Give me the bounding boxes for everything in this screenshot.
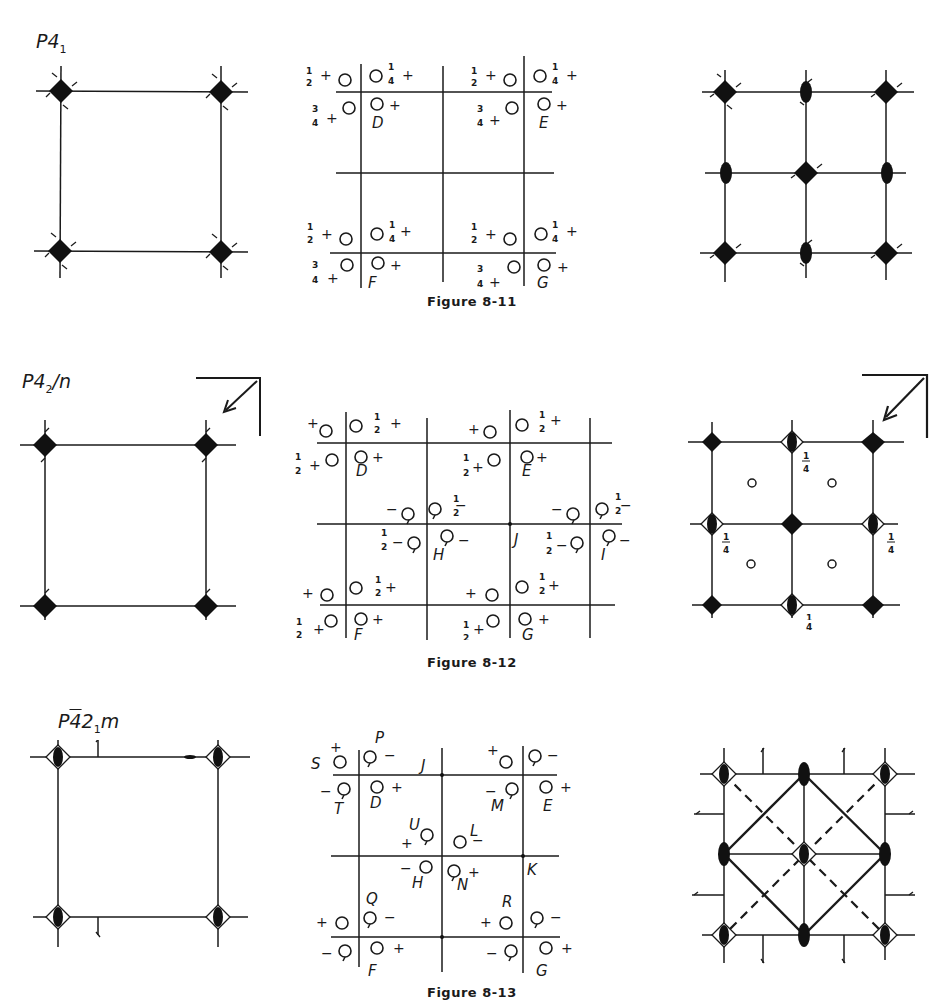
svg-text:2: 2 [471,78,477,88]
svg-text:4: 4 [389,234,395,244]
position-label-f: F [368,962,377,980]
position-label-g: G [522,626,534,640]
symmetry-elements-p41 [680,50,951,300]
two-fold-axis-icon [184,755,196,759]
space-group-label-p-4-21m: P421m [58,710,119,736]
svg-text:−: − [400,860,412,876]
svg-text:+: + [326,110,338,126]
svg-text:2: 2 [463,633,469,640]
general-positions-p42n: ++++ ++++ −−−− −−−− ++++ ++++ 12 12 12 1… [280,390,650,640]
svg-text:4: 4 [888,545,894,555]
svg-text:2: 2 [615,506,621,516]
svg-text:+: + [468,864,480,880]
svg-text:2: 2 [463,468,469,478]
space-group-symbol: P [58,710,69,732]
svg-text:−: − [458,532,470,548]
svg-text:4: 4 [723,545,729,555]
position-label-d: D [370,794,382,812]
position-label-f: F [354,626,363,640]
svg-text:4: 4 [552,76,558,86]
space-group-bar4: 4 [69,710,81,732]
svg-text:+: + [473,621,485,637]
screw-axis-4-2-icon [33,433,218,618]
svg-text:+: + [330,739,342,755]
space-group-symbol: P4 [36,30,60,52]
position-label-e: E [543,797,553,815]
svg-text:+: + [468,421,480,437]
svg-text:2: 2 [296,630,302,640]
general-positions-p41: ++++ ++++ ++++ ++++ 12 14 34 12 14 34 12… [290,50,620,300]
screw-axis-4-1-icon [48,79,233,264]
position-label-k: K [527,861,538,879]
svg-text:−: − [392,534,404,550]
svg-text:1: 1 [615,492,621,502]
position-label-g: G [537,274,549,292]
svg-text:1: 1 [552,220,558,230]
svg-text:+: + [389,97,401,113]
position-label-d: D [372,114,384,132]
svg-text:+: + [536,449,548,465]
position-label-j: J [511,531,518,549]
svg-text:+: + [393,940,405,956]
position-label-u: U [409,816,420,834]
svg-text:+: + [402,67,414,83]
position-label-h: H [412,874,423,892]
svg-text:1: 1 [803,451,809,461]
svg-text:+: + [472,459,484,475]
svg-text:+: + [320,67,332,83]
symmetry-elements-p-4-21m [680,720,951,980]
svg-text:1: 1 [389,220,395,230]
svg-text:2: 2 [374,425,380,435]
svg-text:4: 4 [477,279,483,289]
svg-text:+: + [480,914,492,930]
svg-text:1: 1 [552,62,558,72]
unit-cell-symmetry-p42n [0,370,280,620]
position-label-p: P [375,729,385,747]
svg-text:1: 1 [463,620,469,630]
svg-text:1: 1 [374,412,380,422]
svg-text:1: 1 [539,572,545,582]
svg-text:1: 1 [306,66,312,76]
figure-caption-8-11: Figure 8-11 [427,294,517,309]
svg-text:−: − [619,532,631,548]
svg-text:+: + [390,415,402,431]
svg-text:+: + [307,415,319,431]
svg-text:1: 1 [381,528,387,538]
position-label-j: J [418,757,425,775]
svg-text:1: 1 [888,532,894,542]
svg-text:2: 2 [546,546,552,556]
unit-cell-symmetry-p-4-21m [0,740,280,990]
svg-text:3: 3 [477,104,483,114]
figure-caption-8-12: Figure 8-12 [427,655,517,670]
space-group-two: 2 [82,710,94,732]
svg-text:1: 1 [295,452,301,462]
svg-text:+: + [485,67,497,83]
svg-text:4: 4 [803,464,809,474]
svg-text:2: 2 [295,466,301,476]
svg-text:+: + [390,257,402,273]
svg-text:1: 1 [539,410,545,420]
svg-text:−: − [556,537,568,553]
svg-text:2: 2 [453,508,459,518]
svg-text:+: + [566,67,578,83]
svg-text:4: 4 [552,234,558,244]
svg-text:+: + [302,585,314,601]
position-label-s: S [311,755,321,773]
position-label-f: F [368,274,377,292]
svg-text:2: 2 [307,235,313,245]
position-label-e: E [522,462,532,480]
svg-text:+: + [561,940,573,956]
svg-text:1: 1 [723,532,729,542]
svg-text:+: + [485,226,497,242]
svg-text:1: 1 [806,613,812,620]
svg-text:1: 1 [471,222,477,232]
position-label-r: R [502,893,512,911]
svg-text:+: + [313,621,325,637]
svg-text:2: 2 [539,586,545,596]
svg-text:−: − [320,783,332,799]
svg-text:2: 2 [471,235,477,245]
svg-text:1: 1 [471,66,477,76]
svg-text:−: − [386,501,398,517]
space-group-subscript: 1 [94,723,101,736]
svg-text:−: − [550,909,562,925]
